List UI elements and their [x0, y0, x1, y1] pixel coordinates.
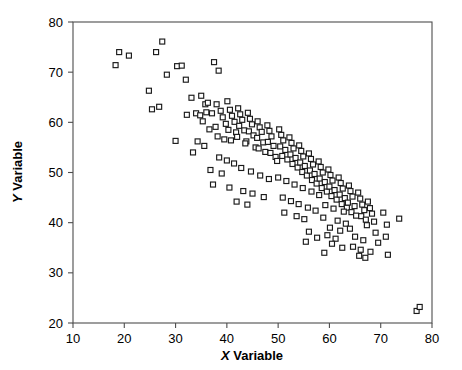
- data-point: [363, 255, 368, 260]
- data-point: [292, 182, 297, 187]
- data-point: [305, 205, 310, 210]
- data-point: [358, 196, 363, 201]
- data-point: [205, 100, 210, 105]
- data-point: [211, 182, 216, 187]
- data-point: [318, 164, 323, 169]
- data-point: [160, 39, 165, 44]
- data-point: [245, 110, 250, 115]
- data-point: [268, 150, 273, 155]
- data-point: [301, 154, 306, 159]
- data-point: [189, 95, 194, 100]
- data-point: [397, 216, 402, 221]
- data-point: [239, 165, 244, 170]
- data-point: [341, 209, 346, 214]
- data-point: [247, 116, 252, 121]
- data-point: [330, 178, 335, 183]
- data-point: [199, 93, 204, 98]
- data-point: [227, 107, 232, 112]
- data-point: [345, 200, 350, 205]
- data-point: [385, 252, 390, 257]
- data-point: [365, 199, 370, 204]
- data-point: [235, 134, 240, 139]
- data-point: [347, 226, 352, 231]
- data-point: [322, 250, 327, 255]
- data-point: [173, 138, 178, 143]
- data-point: [249, 122, 254, 127]
- data-point: [367, 206, 372, 211]
- data-point: [146, 88, 151, 93]
- data-point: [179, 63, 184, 68]
- data-point: [314, 181, 319, 186]
- data-point: [281, 138, 286, 143]
- x-tick-label: 30: [168, 331, 182, 346]
- data-point: [222, 137, 227, 142]
- data-point: [220, 115, 225, 120]
- data-point: [350, 194, 355, 199]
- data-point: [290, 161, 295, 166]
- data-point: [250, 191, 255, 196]
- data-point: [234, 199, 239, 204]
- data-point: [191, 150, 196, 155]
- data-point: [207, 127, 212, 132]
- y-tick-label: 20: [49, 316, 63, 331]
- data-point: [364, 223, 369, 228]
- data-point: [269, 134, 274, 139]
- x-tick-label: 10: [66, 331, 80, 346]
- data-point: [258, 173, 263, 178]
- data-point: [216, 68, 221, 73]
- data-point: [223, 121, 228, 126]
- data-point: [288, 152, 293, 157]
- data-point: [308, 156, 313, 161]
- data-point: [280, 153, 285, 158]
- data-point: [255, 135, 260, 140]
- data-point: [278, 144, 283, 149]
- x-axis-title: X Variable: [220, 348, 283, 363]
- data-point: [338, 228, 343, 233]
- data-point: [227, 185, 232, 190]
- data-point: [309, 189, 314, 194]
- data-point: [283, 147, 288, 152]
- data-point: [384, 222, 389, 227]
- data-point: [294, 214, 299, 219]
- data-point: [214, 102, 219, 107]
- data-point: [360, 202, 365, 207]
- data-point: [224, 158, 229, 163]
- data-point: [280, 195, 285, 200]
- data-point: [248, 169, 253, 174]
- scatter-chart-canvas: 1020304050607080 20304050607080 X Variab…: [0, 0, 462, 370]
- data-point: [263, 149, 268, 154]
- data-point: [195, 139, 200, 144]
- data-point: [126, 53, 131, 58]
- data-point: [297, 143, 302, 148]
- data-point: [259, 129, 264, 134]
- data-point: [277, 127, 282, 132]
- data-point: [356, 190, 361, 195]
- data-point: [328, 173, 333, 178]
- data-point: [228, 138, 233, 143]
- data-point: [217, 155, 222, 160]
- data-point: [381, 210, 386, 215]
- data-point: [287, 135, 292, 140]
- data-point: [238, 112, 243, 117]
- data-point: [265, 123, 270, 128]
- data-point: [417, 304, 422, 309]
- data-point: [326, 167, 331, 172]
- data-point: [157, 104, 162, 109]
- data-point: [291, 146, 296, 151]
- y-tick-label: 80: [49, 15, 63, 30]
- x-tick-label: 80: [425, 331, 439, 346]
- data-point: [232, 161, 237, 166]
- data-point: [237, 123, 242, 128]
- data-point: [329, 194, 334, 199]
- data-point: [226, 127, 231, 132]
- data-point: [218, 108, 223, 113]
- data-point: [113, 63, 118, 68]
- data-point: [333, 236, 338, 241]
- data-point: [164, 72, 169, 77]
- data-point: [346, 183, 351, 188]
- data-point: [306, 229, 311, 234]
- data-point: [267, 128, 272, 133]
- data-point: [325, 233, 330, 238]
- scatter-plot-figure: 1020304050607080 20304050607080 X Variab…: [0, 0, 462, 370]
- data-point: [332, 188, 337, 193]
